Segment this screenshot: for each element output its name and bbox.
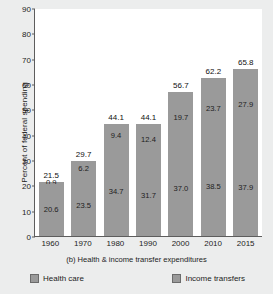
- x-axis-ticks: 1960197019801990200020102015: [34, 239, 262, 248]
- x-axis-tick-label: 1980: [103, 239, 128, 248]
- bar-segment-health-care[interactable]: 6.2: [71, 161, 96, 177]
- x-axis-tick-label: 2010: [201, 239, 226, 248]
- legend-label: Health care: [43, 274, 84, 283]
- bar-total-label: 44.1: [108, 113, 124, 122]
- segment-value-label: 9.4: [111, 132, 122, 140]
- bar-segment-health-care[interactable]: 27.9: [233, 69, 258, 140]
- chart-figure: Percent of federal spending 010203040506…: [0, 0, 273, 294]
- segment-value-label: 38.5: [206, 183, 221, 191]
- bar-total-label: 29.7: [76, 150, 92, 159]
- bar-column[interactable]: 62.223.738.5: [201, 9, 226, 236]
- bar-segment-health-care[interactable]: 12.4: [136, 124, 161, 155]
- x-axis-tick-label: 1990: [135, 239, 160, 248]
- bar-segment-income-transfers[interactable]: 20.6: [39, 184, 64, 236]
- bar-total-label: 65.8: [238, 58, 254, 67]
- bar-segment-income-transfers[interactable]: 31.7: [136, 156, 161, 236]
- legend-swatch-icon: [172, 274, 181, 283]
- segment-value-label: 37.0: [174, 185, 189, 193]
- bar-segment-income-transfers[interactable]: 37.9: [233, 140, 258, 236]
- segment-value-label: 31.7: [141, 192, 156, 200]
- bar-total-label: 56.7: [173, 81, 189, 90]
- segment-value-label: 23.5: [76, 202, 91, 210]
- legend-item[interactable]: Income transfers: [172, 274, 245, 283]
- segment-value-label: 23.7: [206, 105, 221, 113]
- plot-area: 0102030405060708090 21.50.920.629.76.223…: [34, 9, 262, 237]
- bar-column[interactable]: 29.76.223.5: [71, 9, 96, 236]
- bar-total-label: 44.1: [141, 113, 157, 122]
- segment-value-label: 27.9: [238, 101, 253, 109]
- bar-column[interactable]: 44.19.434.7: [104, 9, 129, 236]
- bar-segment-income-transfers[interactable]: 34.7: [104, 148, 129, 236]
- bar-column[interactable]: 65.827.937.9: [233, 9, 258, 236]
- x-axis-tick-label: 1970: [70, 239, 95, 248]
- x-axis-tick-label: 2015: [233, 239, 258, 248]
- x-axis-tick-label: 2000: [168, 239, 193, 248]
- y-axis-tick-mark: [32, 237, 35, 238]
- bar-column[interactable]: 21.50.920.6: [39, 9, 64, 236]
- chart-caption: (b) Health & income transfer expenditure…: [0, 255, 273, 264]
- segment-value-label: 34.7: [109, 188, 124, 196]
- legend-swatch-icon: [30, 274, 39, 283]
- bar-group: 21.50.920.629.76.223.544.19.434.744.112.…: [35, 9, 262, 236]
- segment-value-label: 19.7: [174, 114, 189, 122]
- bar-segment-health-care[interactable]: 19.7: [168, 92, 193, 142]
- bar-segment-income-transfers[interactable]: 23.5: [71, 176, 96, 236]
- bar-column[interactable]: 56.719.737.0: [168, 9, 193, 236]
- bar-segment-health-care[interactable]: 23.7: [201, 78, 226, 138]
- segment-value-label: 37.9: [238, 184, 253, 192]
- bar-segment-income-transfers[interactable]: 37.0: [168, 142, 193, 236]
- x-axis-tick-label: 1960: [38, 239, 63, 248]
- segment-value-label: 20.6: [44, 206, 59, 214]
- bar-segment-health-care[interactable]: 9.4: [104, 124, 129, 148]
- segment-value-label: 6.2: [78, 165, 89, 173]
- segment-value-label: 12.4: [141, 136, 156, 144]
- chart-legend: Health careIncome transfers: [30, 274, 245, 283]
- bar-segment-income-transfers[interactable]: 38.5: [201, 138, 226, 236]
- bar-column[interactable]: 44.112.431.7: [136, 9, 161, 236]
- legend-label: Income transfers: [185, 274, 245, 283]
- bar-total-label: 62.2: [206, 67, 222, 76]
- legend-item[interactable]: Health care: [30, 274, 84, 283]
